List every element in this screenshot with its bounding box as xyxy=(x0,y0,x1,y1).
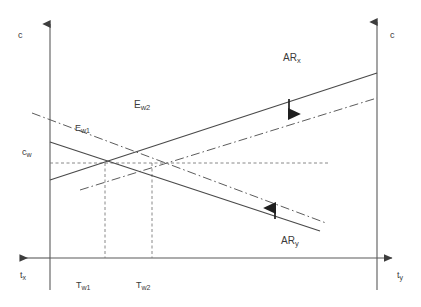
ew1-label: Ew1 xyxy=(75,124,90,133)
tw1-label: Tw1 xyxy=(76,281,90,290)
ar-y-label: ARy xyxy=(281,236,299,246)
tw2-sub: w2 xyxy=(142,284,151,291)
ar-x-label: ARx xyxy=(283,53,301,63)
cw-base: c xyxy=(22,147,27,157)
tx-axis-label: tx xyxy=(20,271,26,280)
tw1-sub: w1 xyxy=(82,284,91,291)
ar-y-sub: y xyxy=(295,239,299,248)
ty-sub: y xyxy=(400,274,404,281)
tw2-label: Tw2 xyxy=(136,281,150,290)
diagram-canvas xyxy=(0,0,421,307)
ar-x-shifted-dashdot-curve xyxy=(80,98,377,190)
ew2-base: E xyxy=(134,99,141,110)
diagram-root: c c tx ty cw Tw1 Tw2 Ew1 Ew2 ARx ARy xyxy=(0,0,421,307)
axes-group xyxy=(20,22,392,290)
ar-x-base: AR xyxy=(283,52,297,63)
cw-label: cw xyxy=(22,148,32,157)
tw2-base: T xyxy=(136,280,142,290)
tx-sub: x xyxy=(23,274,27,281)
ar-y-base: AR xyxy=(281,235,295,246)
tw1-base: T xyxy=(76,280,82,290)
right-c-axis-label: c xyxy=(390,31,395,40)
ty-axis-label: ty xyxy=(397,271,403,280)
ew1-sub: w1 xyxy=(81,127,90,134)
ar-x-sub: x xyxy=(297,56,301,65)
left-c-axis-label: c xyxy=(18,31,23,40)
cw-sub: w xyxy=(27,151,32,158)
ar-y-solid-curve xyxy=(50,142,320,231)
curves-group xyxy=(32,73,377,231)
ew2-label: Ew2 xyxy=(134,100,150,110)
ew2-sub: w2 xyxy=(141,103,151,112)
ar-x-solid-curve xyxy=(50,73,377,180)
shift-arrows-group xyxy=(275,99,289,219)
